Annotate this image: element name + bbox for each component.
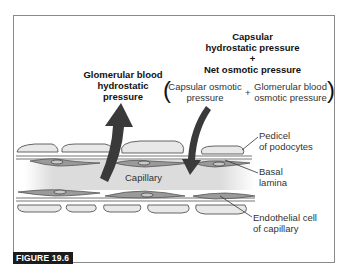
label-basal-lamina: Basal lamina — [259, 166, 287, 188]
label-line: Basal — [259, 166, 287, 177]
label-line: osmotic pressure — [253, 92, 328, 103]
label-line: Pedicel — [259, 130, 313, 141]
label-glomerular-hydrostatic: Glomerular blood hydrostatic pressure — [78, 69, 168, 102]
label-line: hydrostatic — [78, 80, 168, 91]
label-line: Glomerular blood — [78, 69, 168, 80]
label-line: pressure — [78, 91, 168, 102]
pedicels-bottom — [18, 205, 247, 214]
figure-label: FIGURE 19.6 — [13, 252, 73, 264]
label-endothelial: Endothelial cell of capillary — [253, 212, 317, 234]
label-line: lamina — [259, 177, 287, 188]
plus-sign: + — [190, 53, 315, 64]
label-line: pressure — [168, 92, 242, 103]
label-line: of capillary — [253, 223, 317, 234]
label-line: Capsular — [190, 31, 315, 42]
label-pedicel: Pedicel of podocytes — [259, 130, 313, 152]
label-capsular-hydrostatic: Capsular hydrostatic pressure + Net osmo… — [190, 31, 315, 75]
label-capillary: Capillary — [125, 172, 162, 183]
plus-sign: + — [245, 87, 251, 98]
label-line: of podocytes — [259, 141, 313, 152]
label-line: Glomerular blood — [253, 81, 328, 92]
pedicels-top — [17, 141, 244, 154]
label-line: Net osmotic pressure — [190, 64, 315, 75]
label-line: Capsular osmotic — [168, 81, 242, 92]
label-line: hydrostatic pressure — [190, 42, 315, 53]
paren-close: ) — [327, 78, 335, 102]
label-capsular-osmotic: Capsular osmotic pressure — [168, 81, 242, 103]
label-line: Endothelial cell — [253, 212, 317, 223]
label-glomerular-osmotic: Glomerular blood osmotic pressure — [253, 81, 328, 103]
